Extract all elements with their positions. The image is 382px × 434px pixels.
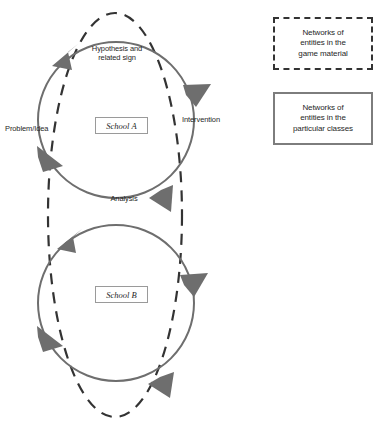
legend-item-game-material-label: Networks of entities in the game materia… bbox=[298, 28, 347, 60]
label-intervention: Intervention bbox=[182, 115, 240, 124]
node-school-a: School A bbox=[95, 117, 148, 134]
arrowhead-a-left bbox=[37, 146, 63, 172]
arrowhead-b-right bbox=[180, 273, 208, 297]
legend-item-game-material: Networks of entities in the game materia… bbox=[273, 17, 373, 70]
label-hypothesis-and-related-sign: Hypothesis and related sign bbox=[82, 44, 152, 62]
label-problem-idea: Problem/Idea bbox=[5, 124, 57, 133]
node-school-b-label: School B bbox=[106, 290, 136, 300]
node-school-b: School B bbox=[95, 286, 148, 303]
legend-item-particular-classes-label: Networks of entities in the particular c… bbox=[293, 103, 353, 135]
diagram-root: Hypothesis and related sign Intervention… bbox=[0, 0, 382, 434]
arrowhead-b-top-left bbox=[57, 229, 82, 253]
node-school-a-label: School A bbox=[106, 121, 136, 131]
dashed-network-ellipse bbox=[48, 13, 182, 417]
label-analysis: Analysis bbox=[100, 194, 148, 203]
arrowhead-a-right bbox=[183, 84, 211, 107]
legend-item-particular-classes: Networks of entities in the particular c… bbox=[273, 92, 373, 145]
arrowhead-b-bottom bbox=[148, 372, 174, 398]
